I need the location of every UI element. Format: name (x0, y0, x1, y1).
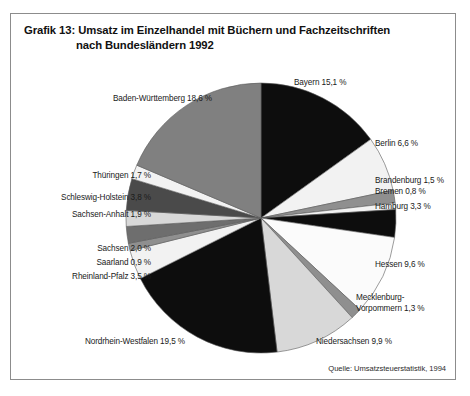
pie-label-brandenburg: Brandenburg 1,5 % (375, 176, 444, 186)
pie-label-mecklenburg-vorpommern: Mecklenburg- Vorpommern 1,3 % (356, 293, 424, 314)
pie-label-thueringen: Thüringen 1,7 % (15, 171, 151, 181)
pie-label-berlin: Berlin 6,6 % (375, 139, 418, 149)
pie-label-bayern: Bayern 15,1 % (294, 78, 346, 88)
pie-label-niedersachsen: Niedersachsen 9,9 % (316, 337, 392, 347)
chart-figure: Grafik 13: Umsatz im Einzelhandel mit Bü… (10, 13, 456, 380)
pie-label-hamburg: Hamburg 3,3 % (375, 202, 431, 212)
pie-chart-area: Bayern 15,1 % Berlin 6,6 % Brandenburg 1… (11, 14, 455, 379)
chart-source-note: Quelle: Umsatzsteuerstatistik, 1994 (328, 364, 446, 373)
pie-label-schleswig-holstein: Schleswig-Holstein 3,8 % (15, 193, 151, 203)
pie-label-bremen: Bremen 0,8 % (375, 187, 426, 197)
pie-label-hessen: Hessen 9,6 % (375, 260, 425, 270)
pie-label-sachsen: Sachsen 2,0 % (15, 244, 151, 254)
pie-label-saarland: Saarland 0,9 % (15, 258, 151, 268)
pie-label-sachsen-anhalt: Sachsen-Anhalt 1,9 % (15, 210, 151, 220)
pie-label-rheinland-pfalz: Rheinland-Pfalz 3,5 % (15, 272, 151, 282)
pie-label-baden-wuerttemberg: Baden-Württemberg 18,6 % (56, 94, 212, 104)
pie-label-nordrhein-westfalen: Nordrhein-Westfalen 19,5 % (15, 337, 185, 347)
